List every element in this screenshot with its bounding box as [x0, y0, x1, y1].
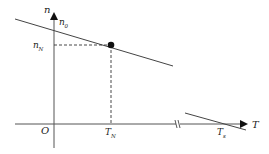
origin-label: O	[41, 125, 49, 136]
n0-label: n 0	[59, 17, 69, 29]
svg-text:N: N	[38, 46, 44, 52]
rated-point	[108, 42, 115, 49]
TN-label: T N	[105, 127, 116, 139]
svg-text:N: N	[110, 133, 116, 139]
Ts-label: T s	[217, 127, 226, 139]
x-axis-label: T	[252, 119, 260, 130]
y-axis-label: n	[44, 4, 50, 15]
svg-text:0: 0	[65, 23, 69, 29]
svg-text:s: s	[223, 133, 226, 139]
nN-label: n N	[33, 40, 44, 52]
axis-break-icon	[175, 120, 180, 128]
diagram-canvas: n T O n 0 n N T N T s	[0, 0, 269, 154]
characteristic-line-end	[185, 113, 246, 130]
